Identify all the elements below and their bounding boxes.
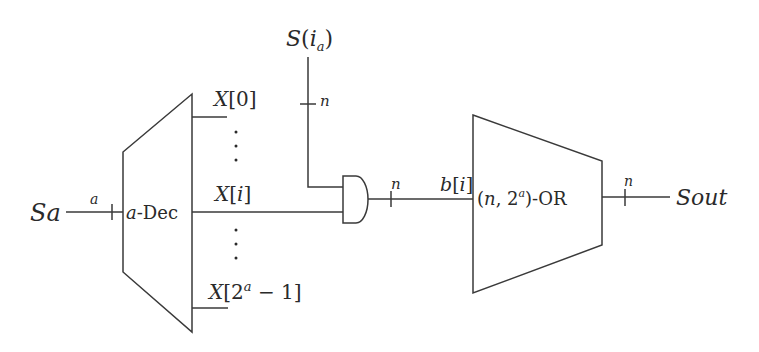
- vertical-ellipsis-bottom: [235, 229, 238, 260]
- decoder-output-x0: X[0]: [192, 87, 257, 117]
- vertical-ellipsis-top: [235, 131, 238, 162]
- sa-width-label: a: [90, 191, 98, 207]
- and-gate: n b[i]: [343, 173, 473, 223]
- or-block: (n, 2a)-OR: [473, 115, 602, 293]
- select-signal: S(ia) n: [286, 26, 343, 187]
- decoder-block: a-Dec: [123, 94, 192, 332]
- or-block-label: (n, 2a)-OR: [477, 187, 567, 209]
- sa-label: Sa: [30, 199, 61, 227]
- xi-label: X[i]: [213, 182, 251, 206]
- circuit-diagram: Sa a a-Dec X[0] X[i] X[2a − 1] S(ia) n: [0, 0, 759, 352]
- and-gate-shape: [343, 176, 368, 223]
- input-sa: Sa a: [30, 191, 123, 227]
- b-i-label: b[i]: [440, 173, 473, 195]
- xlast-label: X[2a − 1]: [207, 279, 302, 304]
- select-label: S(ia): [286, 26, 333, 54]
- decoder-output-xlast: X[2a − 1]: [192, 279, 302, 308]
- sout-label: Sout: [676, 185, 727, 210]
- select-wire: [308, 57, 343, 187]
- and-output-width-label: n: [391, 175, 401, 193]
- decoder-label: a-Dec: [126, 202, 178, 223]
- sout-width-label: n: [624, 173, 633, 189]
- output-sout: n Sout: [602, 173, 727, 210]
- select-width-label: n: [320, 92, 330, 110]
- x0-label: X[0]: [212, 87, 257, 111]
